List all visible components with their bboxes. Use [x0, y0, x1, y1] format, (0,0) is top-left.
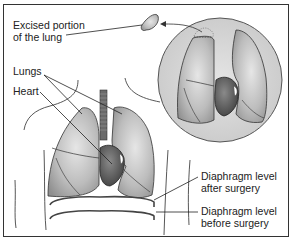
diaphragm-after-line	[50, 197, 154, 207]
label-excised-line2: of the lung	[13, 31, 85, 43]
diaphragm-after-leader	[154, 177, 198, 200]
label-diaphragm-after: Diaphragm level after surgery	[201, 170, 277, 194]
label-excised-line1: Excised portion	[13, 19, 85, 31]
diaphragm-lines	[50, 197, 154, 220]
label-diaphragm-before-line2: before surgery	[201, 217, 277, 229]
label-heart: Heart	[13, 85, 39, 97]
trachea	[100, 90, 107, 140]
excised-lung-piece	[141, 14, 158, 30]
label-diaphragm-before-line1: Diaphragm level	[201, 205, 277, 217]
label-diaphragm-before: Diaphragm level before surgery	[201, 205, 277, 229]
diaphragm-before-line	[50, 211, 154, 220]
label-diaphragm-after-line2: after surgery	[201, 182, 277, 194]
lungs-leader-1	[44, 75, 82, 114]
right-lung	[48, 108, 99, 197]
label-excised: Excised portion of the lung	[13, 19, 85, 43]
label-diaphragm-after-line1: Diaphragm level	[201, 170, 277, 182]
magnified-inset	[158, 18, 282, 142]
label-lungs: Lungs	[13, 65, 42, 77]
